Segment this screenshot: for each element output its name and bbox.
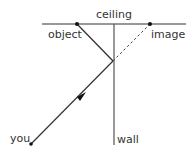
- object-label: object: [48, 28, 83, 41]
- image-label: image: [151, 28, 185, 41]
- ceiling-label: ceiling: [96, 8, 132, 21]
- you-label: you: [10, 132, 30, 145]
- image-dot: [148, 22, 152, 26]
- wall-label: wall: [117, 133, 139, 146]
- object-dot: [75, 22, 79, 26]
- observer-ray: [31, 61, 113, 144]
- virtual-image-ray: [113, 24, 150, 61]
- mirror-reflection-diagram: ceiling object image you wall: [0, 0, 192, 154]
- object-ray: [77, 24, 113, 61]
